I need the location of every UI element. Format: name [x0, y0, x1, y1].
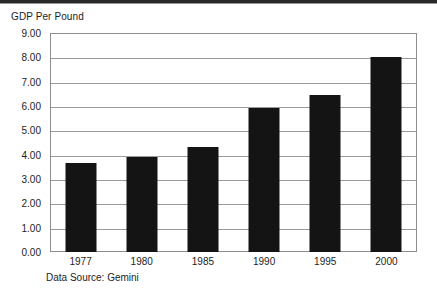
bars-layer	[50, 33, 417, 252]
bar-1995	[310, 95, 341, 252]
y-axis: 9.008.007.006.005.004.003.002.001.000.00	[0, 33, 46, 252]
x-axis-tick-label: 1990	[234, 256, 295, 267]
bar-slot	[172, 33, 233, 252]
y-axis-tick-label: 8.00	[22, 52, 41, 63]
bar-1985	[187, 147, 218, 252]
y-axis-tick-label: 9.00	[22, 28, 41, 39]
bar-slot	[295, 33, 356, 252]
y-axis-tick-label: 3.00	[22, 174, 41, 185]
page-top-rule	[0, 0, 437, 3]
x-axis-tick-label: 2000	[356, 256, 417, 267]
y-axis-tick-label: 4.00	[22, 149, 41, 160]
bar-slot	[111, 33, 172, 252]
y-axis-tick-label: 7.00	[22, 76, 41, 87]
bar-slot	[356, 33, 417, 252]
x-axis-tick-label: 1977	[50, 256, 111, 267]
y-axis-tick-label: 5.00	[22, 125, 41, 136]
bar-1977	[65, 163, 96, 252]
x-axis-tick-label: 1985	[172, 256, 233, 267]
y-axis-tick-label: 0.00	[22, 247, 41, 258]
bar-1980	[126, 157, 157, 252]
bar-2000	[371, 57, 402, 252]
y-axis-tick-label: 2.00	[22, 198, 41, 209]
y-axis-tick-label: 6.00	[22, 101, 41, 112]
bar-slot	[234, 33, 295, 252]
chart-screenshot: GDP Per Pound 9.008.007.006.005.004.003.…	[0, 0, 437, 297]
chart-title: GDP Per Pound	[11, 11, 84, 22]
bar-1990	[249, 108, 280, 252]
bar-slot	[50, 33, 111, 252]
x-axis-tick-label: 1995	[295, 256, 356, 267]
y-axis-tick-label: 1.00	[22, 222, 41, 233]
x-axis: 197719801985199019952000	[50, 256, 417, 272]
x-axis-tick-label: 1980	[111, 256, 172, 267]
source-note: Data Source: Gemini	[46, 272, 139, 283]
